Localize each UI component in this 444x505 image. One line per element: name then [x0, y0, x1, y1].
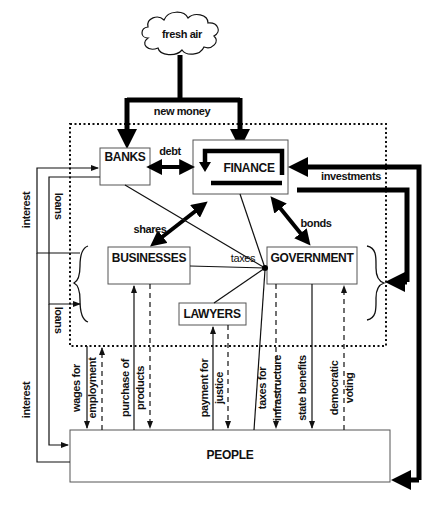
purchase-label-1: purchase of	[119, 358, 131, 417]
fresh-air-cloud: fresh air	[142, 12, 218, 54]
shares-label: shares	[133, 223, 166, 235]
wages-label-2: employment	[86, 357, 98, 419]
bonds-label: bonds	[301, 217, 332, 229]
people-flows: wages for employment purchase of product…	[70, 270, 355, 430]
new-money-flow: new money	[127, 55, 240, 140]
banks-label: BANKS	[104, 150, 145, 164]
node-government: GOVERNMENT	[267, 247, 357, 284]
taxes-label: taxes	[231, 252, 256, 264]
lawyers-label: LAWYERS	[183, 307, 241, 321]
businesses-label: BUSINESSES	[112, 251, 187, 265]
fresh-air-label: fresh air	[162, 28, 203, 40]
economy-flow-diagram: fresh air new money BANKS FINANCE debt B…	[0, 0, 444, 505]
finance-label: FINANCE	[223, 161, 275, 175]
people-label: PEOPLE	[207, 448, 254, 462]
node-finance: FINANCE	[193, 140, 288, 194]
taxes-infra-label-2: infrastructure	[271, 355, 283, 421]
payment-label-1: payment for	[198, 358, 210, 418]
purchase-label-2: products	[134, 366, 146, 410]
node-lawyers: LAWYERS	[179, 303, 246, 325]
democratic-label-2: voting	[343, 373, 355, 404]
loans-lower-label: loans	[53, 307, 65, 334]
government-brace	[367, 246, 384, 320]
node-banks: BANKS	[100, 148, 150, 185]
shares-flow: shares	[133, 206, 202, 241]
payment-label-2: justice	[213, 372, 225, 405]
interest-lower-label: interest	[20, 381, 32, 418]
democratic-label-1: democratic	[328, 360, 340, 415]
node-people: PEOPLE	[70, 430, 390, 482]
new-money-label: new money	[154, 105, 212, 117]
businesses-brace	[74, 246, 88, 322]
government-label: GOVERNMENT	[270, 251, 354, 265]
debt-flow: debt	[155, 145, 188, 167]
state-benefits-label: state benefits	[296, 355, 308, 421]
wages-label-1: wages for	[70, 363, 82, 413]
debt-label: debt	[159, 145, 181, 157]
interest-upper-label: interest	[20, 191, 32, 228]
node-businesses: BUSINESSES	[108, 247, 190, 284]
taxes-infra-label-1: taxes for	[256, 366, 268, 409]
investments-label: investments	[321, 170, 381, 182]
taxes-junction: taxes	[125, 185, 268, 303]
loans-upper-label: loans	[53, 193, 65, 220]
bonds-flow: bonds	[276, 203, 332, 240]
